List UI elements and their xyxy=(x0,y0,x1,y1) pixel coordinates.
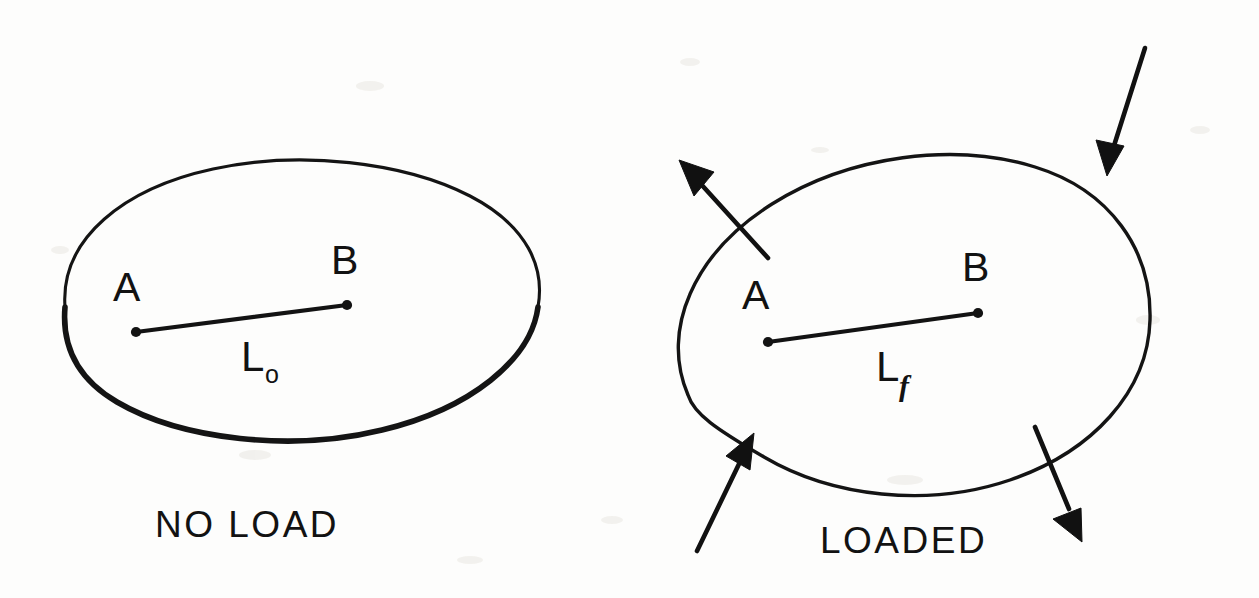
length-label-loaded: L f xyxy=(876,343,912,402)
length-subscript-unloaded: o xyxy=(265,360,279,388)
caption-no-load: NO LOAD xyxy=(155,504,339,545)
gauge-length-loaded xyxy=(763,308,983,347)
length-label-unloaded: L o xyxy=(241,333,279,388)
point-label-b-loaded: B xyxy=(962,244,989,290)
point-label-a-unloaded: A xyxy=(113,264,141,310)
length-symbol-unloaded: L xyxy=(241,333,264,380)
arrow-top-right-inward xyxy=(1096,48,1145,176)
scan-noise xyxy=(51,58,1210,564)
diagram-canvas: A B L o NO LOAD A B xyxy=(0,0,1259,598)
gauge-length-unloaded xyxy=(131,300,352,337)
arrow-lower-right-outward xyxy=(1035,427,1082,542)
arrow-lower-left-inward xyxy=(697,433,754,551)
panel-no-load: A B L o NO LOAD xyxy=(65,160,540,545)
strain-diagram-figure: A B L o NO LOAD A B xyxy=(0,0,1259,598)
length-subscript-loaded: f xyxy=(899,369,912,402)
point-label-b-unloaded: B xyxy=(331,237,358,283)
point-label-a-loaded: A xyxy=(742,272,770,318)
caption-loaded: LOADED xyxy=(820,520,987,561)
length-symbol-loaded: L xyxy=(876,343,899,390)
